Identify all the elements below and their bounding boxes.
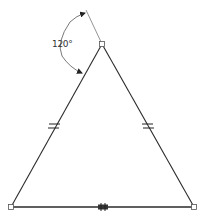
vertex-top[interactable] (100, 42, 105, 47)
edge-right[interactable] (102, 44, 194, 207)
angle-dimension-label[interactable]: 120° (52, 39, 72, 49)
vertex-right[interactable] (192, 205, 197, 210)
angle-reference-line (86, 10, 102, 44)
sketch-canvas (0, 0, 210, 214)
vertex-left[interactable] (9, 205, 14, 210)
midpoint-constraint-icon[interactable] (98, 203, 108, 211)
edge-left[interactable] (11, 44, 102, 207)
equal-constraint-icon-left[interactable] (48, 124, 60, 128)
angle-dimension-arc-top (70, 13, 85, 22)
